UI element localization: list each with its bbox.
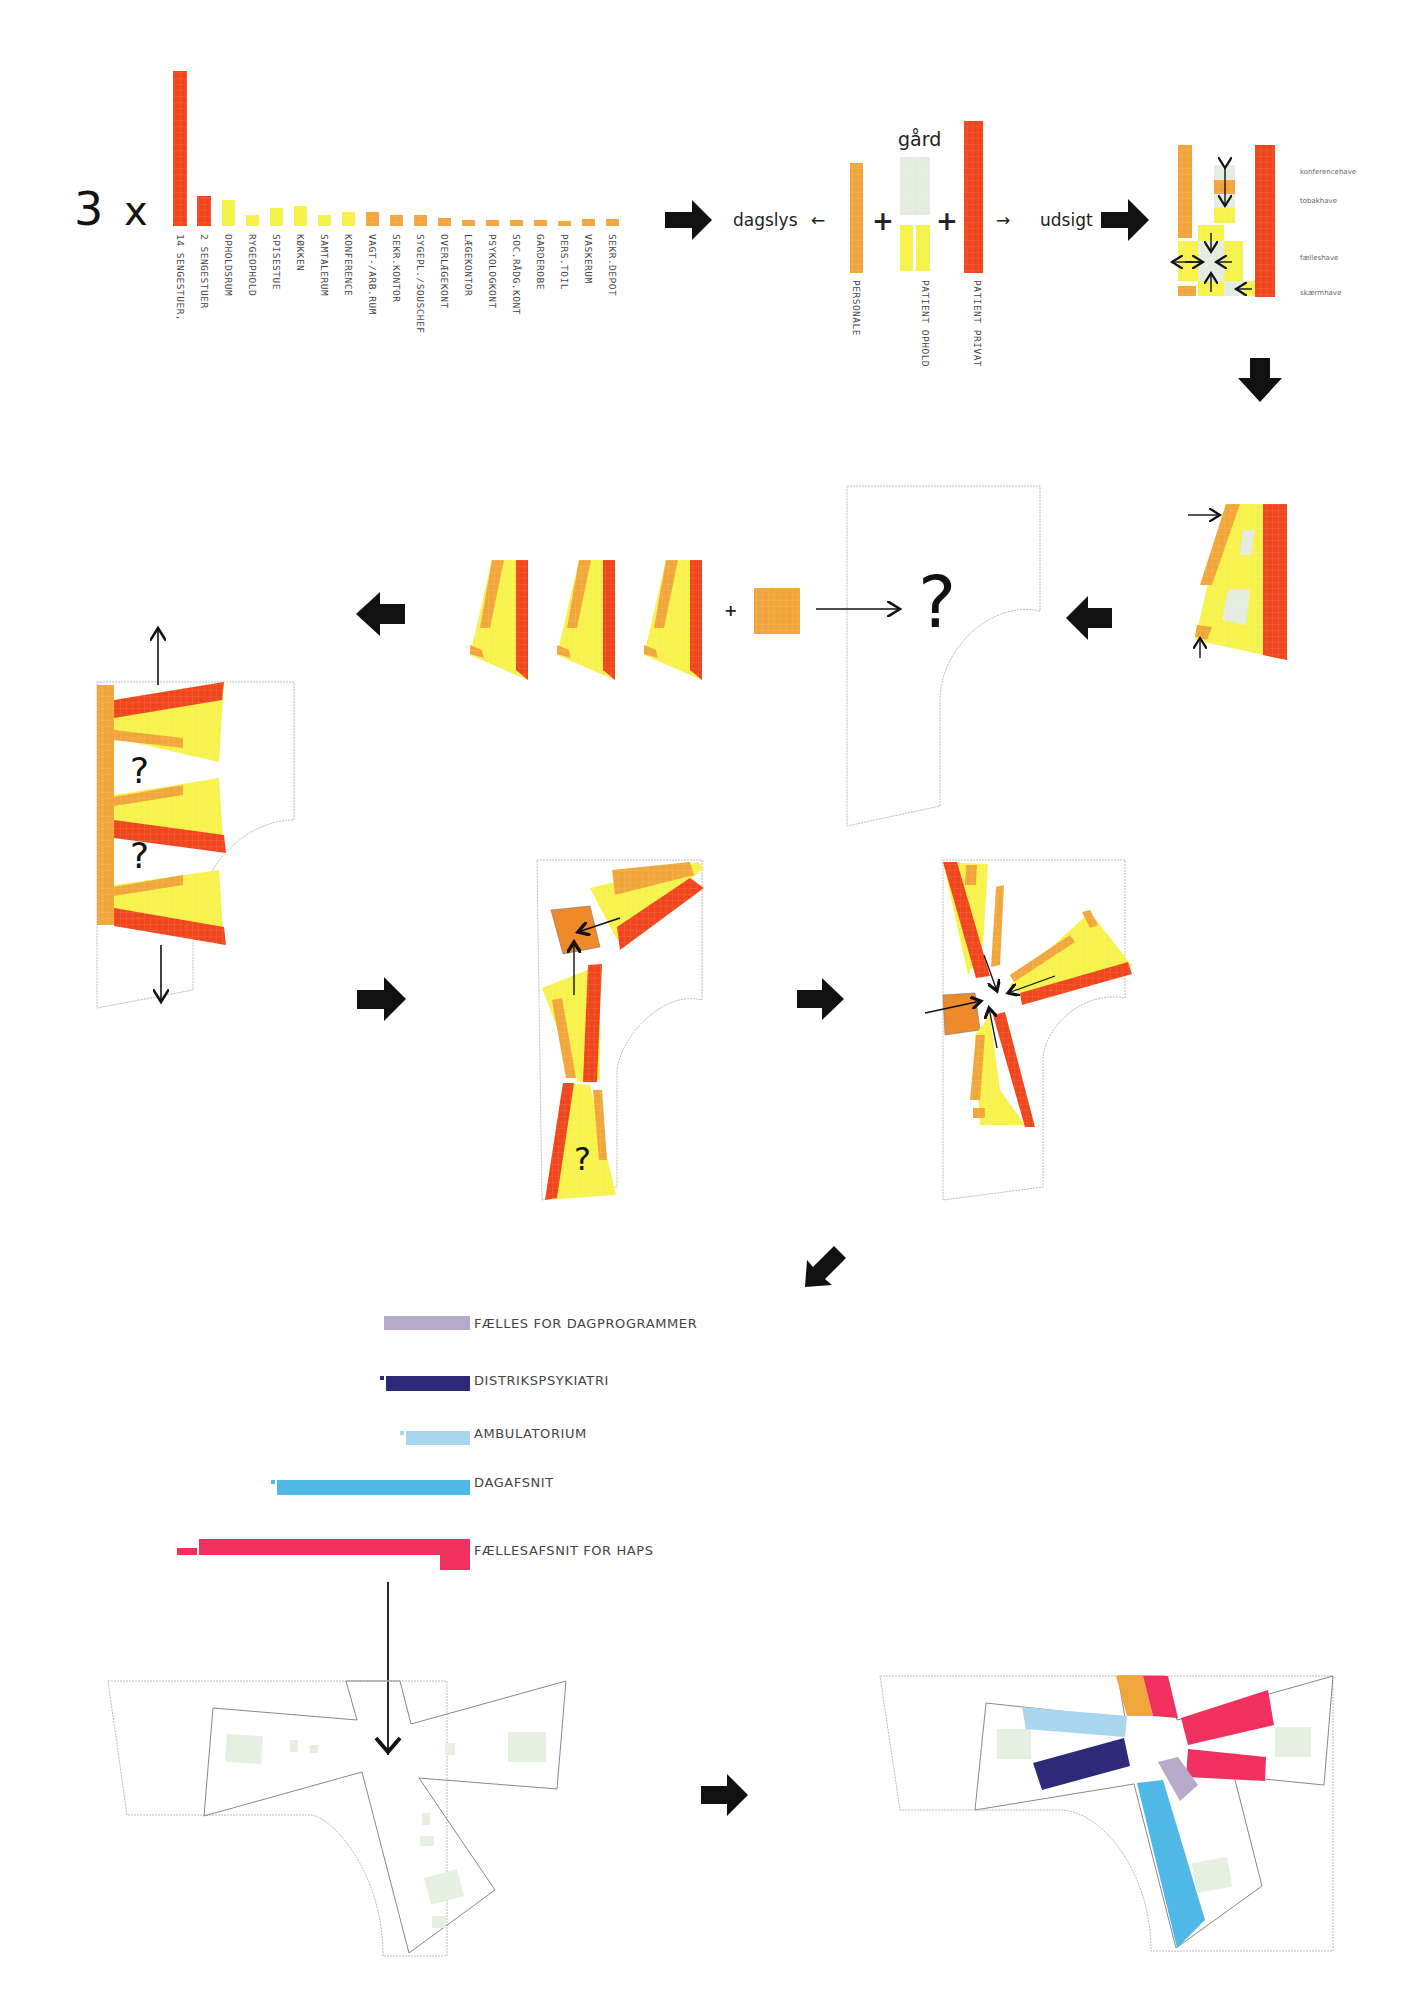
- bar-label: SEKR.DEPOT: [607, 234, 618, 296]
- tree-patch: [508, 1732, 546, 1762]
- bar-label: KONFERENCE: [343, 234, 354, 296]
- bar-overlaegekont: [438, 218, 451, 226]
- flow-arrow-right-icon: [1101, 199, 1149, 241]
- question-mark: ?: [130, 835, 149, 876]
- bar-spisestue: [270, 208, 283, 226]
- bar-rygeophold: [246, 215, 259, 226]
- ward-module: [644, 560, 702, 680]
- tree-patch: [310, 1745, 318, 1753]
- zone-haps: [1181, 1690, 1274, 1745]
- common-block: [943, 993, 980, 1035]
- garden-label: konferencehave: [1300, 168, 1356, 176]
- bar-label: SAMTALERUM: [319, 234, 330, 296]
- bar-konference: [342, 212, 355, 226]
- tree-patch: [997, 1729, 1031, 1759]
- bar-label: PSYKOLOGKONT: [487, 234, 498, 309]
- right-arrow-icon: →: [996, 210, 1010, 230]
- flow-arrow-down-left-icon: [805, 1246, 846, 1287]
- bar-label: OVERLÆGEKONT: [439, 234, 450, 309]
- bar-label: 2 SENGESTUER: [199, 234, 210, 309]
- legend-item-distrikspsykiatri: DISTRIKSPSYKIATRI: [380, 1373, 609, 1391]
- common-block: [754, 588, 800, 634]
- bar-label: OPHOLDSRUM: [223, 234, 234, 296]
- legend-bar-tail: [400, 1431, 404, 1435]
- group-label-patient-privat: PATIENT PRIVAT: [972, 280, 983, 367]
- flow-arrow-right-icon: [797, 978, 844, 1020]
- bar-perstoil: [558, 221, 571, 226]
- room-bar-labels: 14 SENGESTUER, 2 SENGESTUER OPHOLDSRUM R…: [175, 234, 618, 334]
- tree-patch: [290, 1740, 298, 1752]
- bar-label: SYGEPL./SOUSCHEF: [415, 234, 426, 334]
- bar-label: GARDEROBE: [535, 234, 546, 290]
- bar-sekrdepot: [606, 219, 619, 226]
- wedge-staff: [965, 865, 977, 885]
- legend-bar: [386, 1376, 470, 1391]
- flow-arrow-down-icon: [1238, 358, 1282, 402]
- question-mark: ?: [130, 750, 149, 791]
- wedge-private: [690, 560, 702, 680]
- flow-arrow-right-icon: [357, 977, 406, 1021]
- legend-bar: [406, 1431, 470, 1445]
- tree-patch: [424, 1869, 464, 1905]
- courtyard-label: gård: [898, 128, 941, 150]
- legend-item-faelles-dagprogrammer: FÆLLES FOR DAGPROGRAMMER: [384, 1316, 697, 1331]
- staff-block: [1178, 286, 1196, 296]
- bar-label: SOC.RÅDG.KONT: [511, 234, 522, 315]
- bar-samtalerum: [318, 215, 331, 226]
- legend-item-dagafsnit: DAGAFSNIT: [271, 1475, 554, 1495]
- bar-opholdsrum: [222, 200, 235, 226]
- question-mark: ?: [574, 1140, 591, 1178]
- bar-psykologkont: [486, 220, 499, 226]
- garden-arrangement: konferencehave tobakhave fælleshave skær…: [1172, 145, 1356, 297]
- bar-sekr-kontor: [390, 215, 403, 226]
- day-program-legend: FÆLLES FOR DAGPROGRAMMER DISTRIKSPSYKIAT…: [177, 1316, 697, 1570]
- stay-block: [1224, 241, 1243, 281]
- bar-laegekontor: [462, 220, 475, 226]
- flow-arrow-left-icon: [1066, 596, 1112, 640]
- group-label-patient-ophold: PATIENT OPHOLD: [920, 280, 931, 367]
- garden-label: skærmhave: [1300, 289, 1341, 297]
- bar-patient-privat: [964, 121, 983, 273]
- tree-patch: [432, 1916, 446, 1928]
- tree-patch: [1275, 1727, 1311, 1757]
- bar-label: SEKR.KONTOR: [391, 234, 402, 302]
- bar-label: RYGEOPHOLD: [247, 234, 258, 296]
- wedge-staff: [973, 1108, 985, 1118]
- bar-garderobe: [534, 220, 547, 226]
- left-arrow-icon: ←: [811, 210, 825, 230]
- bar-14-sengestuer: [173, 71, 187, 226]
- question-mark: ?: [918, 560, 956, 644]
- bar-label: 14 SENGESTUER,: [175, 234, 186, 321]
- stay-block: [1214, 208, 1235, 223]
- bar-label: VAGT-/ARB.RUM: [367, 234, 378, 315]
- flow-arrow-right-icon: [701, 1774, 748, 1816]
- wedge-private: [516, 560, 528, 680]
- courtyard-block: [900, 157, 930, 215]
- legend-label: DISTRIKSPSYKIATRI: [474, 1373, 609, 1388]
- site-plan-question: ?: [847, 486, 1040, 826]
- private-strip: [1255, 145, 1275, 297]
- bar-label: PERS.TOIL: [559, 234, 570, 290]
- legend-bar: [199, 1539, 440, 1555]
- legend-item-faellesafsnit-haps: FÆLLESAFSNIT FOR HAPS: [177, 1539, 654, 1570]
- plus-icon: +: [724, 601, 737, 620]
- grouped-program: dagslys ← PERSONALE + gård PATIENT OPHOL…: [733, 121, 1093, 367]
- site-plan-empty: [108, 1681, 566, 1956]
- bar-patient-ophold-b: [916, 225, 930, 271]
- bar-sygepl-souschef: [414, 215, 427, 226]
- legend-label: FÆLLESAFSNIT FOR HAPS: [474, 1543, 654, 1558]
- garden-label: tobakhave: [1300, 197, 1337, 205]
- star-layout: [925, 860, 1132, 1200]
- comb-layout: ? ?: [97, 628, 294, 1008]
- legend-bar: [384, 1316, 470, 1330]
- common-block: [551, 906, 600, 954]
- program-diagram: 3 x 14 SENGESTUER, 2 SENGES: [0, 0, 1413, 2003]
- staff-strip: [1178, 145, 1192, 238]
- legend-bar-tail: [380, 1376, 384, 1380]
- wedge-private: [1263, 504, 1287, 660]
- legend-label: FÆLLES FOR DAGPROGRAMMER: [474, 1316, 697, 1331]
- zone-haps: [1186, 1749, 1266, 1781]
- flow-arrow-right-icon: [665, 200, 712, 240]
- legend-bar-tail: [177, 1548, 197, 1555]
- legend-bar: [277, 1480, 470, 1495]
